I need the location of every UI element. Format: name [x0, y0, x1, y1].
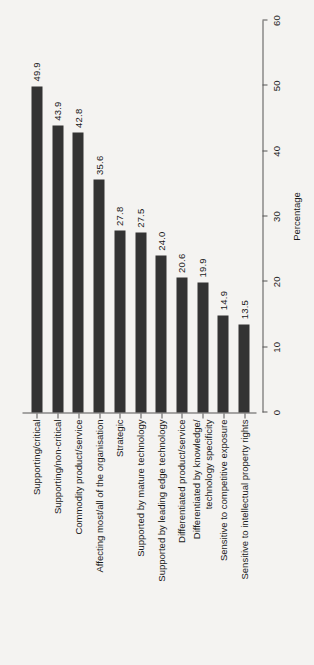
category-axis-tick — [223, 413, 224, 418]
category-axis-tick — [119, 413, 120, 418]
value-axis-tick — [262, 84, 267, 85]
category-axis-tick — [36, 413, 37, 418]
value-axis-tick — [262, 19, 267, 20]
category-label: Differentiated by knowledge/ technology … — [191, 419, 214, 663]
bar — [52, 125, 63, 412]
bar-value-label: 27.8 — [114, 206, 125, 225]
bar-value-label: 43.9 — [52, 101, 63, 120]
bar-value-label: 20.6 — [176, 253, 187, 272]
category-label: Differentiated product/service — [176, 419, 188, 663]
bar — [197, 282, 208, 412]
bar-value-label: 42.8 — [72, 108, 83, 127]
bar-value-label: 13.5 — [238, 300, 249, 319]
category-label: Supporting/critical — [31, 419, 43, 663]
category-label: Strategic — [114, 419, 126, 663]
category-axis-tick — [140, 413, 141, 418]
value-axis-tick-label: 40 — [270, 145, 281, 156]
value-axis-tick — [262, 346, 267, 347]
value-axis-tick — [262, 411, 267, 412]
category-axis-tick — [78, 413, 79, 418]
value-axis-tick-label: 60 — [270, 15, 281, 26]
value-axis-tick — [262, 280, 267, 281]
category-label: Supporting/non-critical — [51, 419, 63, 663]
value-axis-tick-label: 0 — [270, 409, 281, 414]
bar-value-label: 19.9 — [197, 258, 208, 277]
bar — [238, 324, 249, 412]
category-axis-tick — [99, 413, 100, 418]
category-label: Commodity product/service — [72, 419, 84, 663]
plot-area: 0102030405060 49.943.942.835.627.827.524… — [0, 0, 314, 665]
category-label: Sensitive to competitive exposure — [217, 419, 229, 663]
bar — [155, 255, 166, 412]
bar — [176, 277, 187, 412]
value-axis-tick — [262, 215, 267, 216]
chart-page: 0102030405060 49.943.942.835.627.827.524… — [0, 0, 314, 665]
bar-value-label: 49.9 — [31, 62, 42, 81]
bar — [217, 315, 228, 412]
value-axis-tick — [262, 150, 267, 151]
category-axis-tick — [161, 413, 162, 418]
value-axis-title: Percentage — [290, 192, 301, 241]
bar — [135, 232, 146, 412]
category-label: Affecting most/all of the organisation — [93, 419, 105, 663]
category-axis-tick — [181, 413, 182, 418]
category-label: Supported by leading edge technology — [155, 419, 167, 663]
value-axis-tick-label: 50 — [270, 80, 281, 91]
bar-value-label: 27.5 — [135, 208, 146, 227]
rotated-plot-container: 0102030405060 49.943.942.835.627.827.524… — [0, 0, 314, 665]
bar — [93, 179, 104, 412]
category-axis-tick — [202, 413, 203, 418]
value-axis-tick-label: 10 — [270, 341, 281, 352]
value-axis-tick-label: 30 — [270, 211, 281, 222]
category-label: Supported by mature technology — [134, 419, 146, 663]
bar-value-label: 14.9 — [217, 290, 228, 309]
bar-value-label: 35.6 — [93, 155, 104, 174]
bar — [72, 132, 83, 412]
bar — [114, 230, 125, 412]
category-axis-tick — [244, 413, 245, 418]
bar — [31, 86, 42, 412]
bar-value-label: 24.0 — [155, 231, 166, 250]
category-label: Sensitive to intellectual property right… — [238, 419, 250, 663]
value-axis-tick-label: 20 — [270, 276, 281, 287]
category-axis-tick — [57, 413, 58, 418]
